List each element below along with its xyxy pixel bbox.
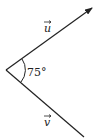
vector-u-label: u	[44, 22, 51, 35]
angle-arc	[21, 59, 25, 82]
vector-u-line	[6, 8, 92, 70]
vector-diagram: 75° u v	[0, 0, 112, 139]
vector-v-label: v	[44, 116, 51, 129]
angle-label: 75°	[27, 66, 47, 79]
